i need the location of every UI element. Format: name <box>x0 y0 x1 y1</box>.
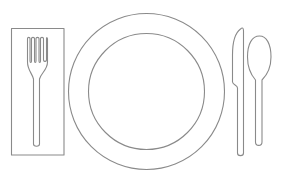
fork-icon <box>28 37 48 146</box>
knife-icon <box>233 28 244 156</box>
plate-outer-rim <box>69 14 225 170</box>
napkin <box>12 29 65 156</box>
place-setting-drawing <box>0 0 286 178</box>
place-setting-illustration: Place setting line drawing <box>0 0 286 178</box>
plate-inner-well <box>89 34 205 150</box>
spoon-icon <box>248 36 272 145</box>
